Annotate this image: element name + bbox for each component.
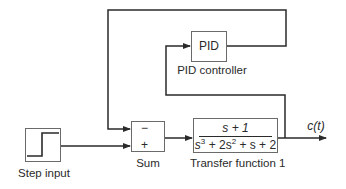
transfer-function-block[interactable]: s + 1 s3 + 2s2 + s + 2 [193, 118, 278, 153]
sum-plus-sign: + [141, 138, 148, 152]
step-input-label: Step input [14, 167, 74, 179]
sum-minus-sign: − [141, 121, 148, 135]
pid-controller-label: PID controller [172, 64, 252, 76]
step-input-block[interactable] [25, 128, 61, 162]
pid-controller-block[interactable]: PID [191, 31, 227, 62]
sum-label: Sum [131, 157, 165, 169]
step-signal-icon [26, 129, 60, 161]
block-diagram: Step input − + Sum PID PID controller s … [0, 0, 346, 189]
output-signal-label: c(t) [303, 119, 329, 133]
tf-numerator: s + 1 [194, 121, 277, 135]
tf-denominator: s3 + 2s2 + s + 2 [194, 137, 277, 152]
transfer-function-label: Transfer function 1 [190, 157, 285, 169]
sum-block[interactable]: − + [131, 121, 165, 152]
pid-block-text: PID [192, 39, 226, 53]
